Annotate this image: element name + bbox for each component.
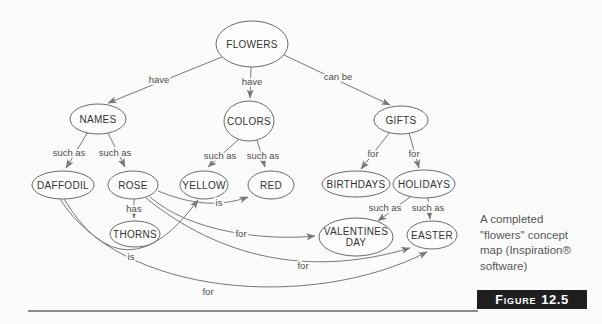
concept-map: FLOWERSNAMESCOLORSGIFTSDAFFODILROSEYELLO…	[0, 0, 602, 324]
node-yellow: YELLOW	[180, 171, 228, 199]
figure-badge: Figure 12.5	[477, 290, 587, 309]
edge-label-flowers-names: have	[149, 74, 170, 85]
bottom-rule	[28, 310, 478, 312]
figure-caption: A completed "flowers" concept map (Inspi…	[480, 212, 598, 274]
node-valentines-day: VALENTINESDAY	[319, 218, 393, 256]
node-rose: ROSE	[108, 171, 158, 199]
node-label-names: NAMES	[79, 114, 116, 125]
edge-label-colors-yellow: such as	[204, 150, 237, 161]
edge-label-holidays-valentines-day: such as	[369, 202, 402, 213]
node-red: RED	[248, 171, 294, 199]
node-label-red: RED	[260, 180, 282, 191]
node-birthdays: BIRTHDAYS	[322, 171, 390, 197]
edge-label-daffodil-easter: for	[202, 286, 213, 297]
node-label-holidays: HOLIDAYS	[398, 179, 450, 190]
node-label-flowers: FLOWERS	[226, 39, 278, 50]
node-label-birthdays: BIRTHDAYS	[326, 179, 385, 190]
figure-badge-number: 12.5	[541, 292, 568, 307]
figure-badge-word: Figure	[495, 293, 536, 307]
node-colors: COLORS	[224, 101, 274, 141]
edge-label-flowers-gifts: can be	[324, 71, 353, 82]
node-flowers: FLOWERS	[216, 21, 288, 67]
edge-label-holidays-easter: such as	[412, 202, 445, 213]
node-label-thorns: THORNS	[113, 229, 157, 240]
edge-label-names-rose: such as	[99, 147, 132, 158]
edge-label-gifts-birthdays: for	[367, 148, 378, 159]
node-holidays: HOLIDAYS	[393, 170, 455, 198]
node-label-easter: EASTER	[411, 230, 453, 241]
page: FLOWERSNAMESCOLORSGIFTSDAFFODILROSEYELLO…	[0, 0, 602, 324]
node-label-daffodil: DAFFODIL	[37, 180, 89, 191]
node-thorns: THORNS	[110, 221, 160, 247]
node-names: NAMES	[70, 104, 126, 134]
edge-label-names-daffodil: such as	[53, 147, 86, 158]
node-label-yellow: YELLOW	[182, 180, 226, 191]
edge-label-flowers-colors: have	[242, 76, 263, 87]
edge-rose-valentines-day	[150, 197, 315, 237]
edge-label-rose-easter: for	[297, 260, 308, 271]
node-label-rose: ROSE	[118, 180, 148, 191]
edge-label-daffodil-yellow: is	[128, 251, 135, 262]
edge-label-rose-red: is	[216, 197, 223, 208]
edge-label-gifts-holidays: for	[408, 148, 419, 159]
node-label-gifts: GIFTS	[386, 115, 417, 126]
node-gifts: GIFTS	[374, 106, 428, 134]
edge-label-colors-red: such as	[247, 150, 280, 161]
edge-label-rose-thorns: has	[126, 203, 142, 214]
edge-label-rose-valentines-day: for	[235, 228, 246, 239]
node-label-colors: COLORS	[227, 116, 271, 127]
node-easter: EASTER	[407, 221, 457, 249]
node-daffodil: DAFFODIL	[32, 171, 94, 199]
